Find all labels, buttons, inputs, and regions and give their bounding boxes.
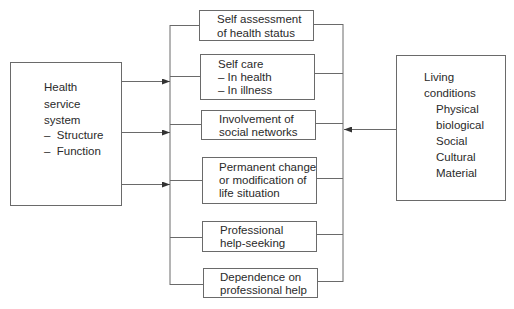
living-conditions-item-biological: biological <box>436 117 484 134</box>
living-conditions-title-1: Living <box>424 69 454 86</box>
social-networks-line-2: social networks <box>219 125 298 140</box>
health-service-title-2: service <box>44 96 80 113</box>
permanent-change-line-3: life situation <box>219 186 280 201</box>
self-assessment-line-1: Self assessment <box>217 12 301 27</box>
living-conditions-box: Living conditions Physical biological So… <box>396 55 506 201</box>
social-networks-box: Involvement of social networks <box>201 110 316 140</box>
help-seeking-line-2: help-seeking <box>220 236 285 251</box>
self-assessment-box: Self assessment of health status <box>199 10 314 41</box>
health-service-item-structure: – Structure <box>44 127 103 144</box>
self-care-box: Self care – In health – In illness <box>200 54 315 100</box>
help-seeking-box: Professional help-seeking <box>202 221 317 252</box>
living-conditions-item-social: Social <box>436 133 467 150</box>
health-service-system-box: Health service system – Structure – Func… <box>10 62 122 206</box>
self-care-line-3: – In illness <box>218 83 272 98</box>
health-service-title-1: Health <box>44 79 77 96</box>
dependence-box: Dependence on professional help <box>203 268 318 298</box>
living-conditions-title-2: conditions <box>424 85 476 102</box>
living-conditions-item-material: Material <box>436 165 477 182</box>
permanent-change-box: Permanent change or modification of life… <box>202 157 317 204</box>
self-assessment-line-2: of health status <box>217 26 295 41</box>
living-conditions-item-physical: Physical <box>436 101 479 118</box>
dependence-line-2: professional help <box>220 283 307 298</box>
health-service-item-function: – Function <box>44 143 101 160</box>
living-conditions-item-cultural: Cultural <box>436 149 476 166</box>
